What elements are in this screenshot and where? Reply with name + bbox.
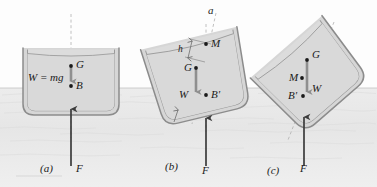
panel-b-label-M: M — [210, 37, 221, 49]
panel-c-gravity-point — [305, 58, 309, 62]
panel-c-label-F: F — [299, 162, 307, 174]
panel-b-label-W: W — [179, 88, 189, 100]
panel-a-label-B: B — [76, 79, 83, 91]
panel-c-label-G: G — [312, 48, 320, 60]
panel-a-label-G: G — [76, 58, 84, 70]
stability-figure: G B W = mg F (a) a h — [0, 0, 377, 187]
panel-b-label-h: h — [178, 44, 183, 54]
panel-a-gravity-point — [69, 64, 73, 68]
panel-c-label-W: W — [312, 82, 322, 94]
panel-b-gravity-point — [194, 66, 198, 70]
panel-c-metacenter-point — [300, 76, 304, 80]
panel-b-label-F: F — [201, 164, 209, 176]
panel-a-label-F: F — [75, 162, 83, 174]
panel-c-label-M: M — [288, 71, 299, 83]
panel-b-buoyancy-point — [204, 93, 208, 97]
panel-b-metacenter-point — [204, 42, 208, 46]
panel-b-label-axis: a — [208, 4, 214, 16]
panel-b-label-G: G — [184, 61, 192, 73]
panel-b-caption: (b) — [165, 160, 178, 173]
panel-a-caption: (a) — [40, 162, 53, 175]
panel-c-label-B: B' — [288, 89, 298, 101]
panel-a-buoyancy-point — [69, 84, 73, 88]
panel-b-label-B: B' — [211, 88, 221, 100]
panel-c-buoyancy-point — [301, 94, 305, 98]
panel-c-caption: (c) — [267, 164, 280, 177]
panel-a-label-W: W = mg — [28, 71, 64, 83]
